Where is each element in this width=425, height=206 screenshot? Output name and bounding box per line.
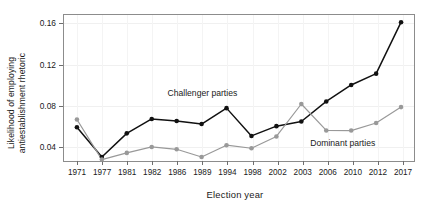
- data-point-dominant-parties-1981: [125, 151, 130, 156]
- data-point-challenger-parties-1998: [249, 134, 254, 139]
- x-tick-label-1994: 1994: [218, 168, 236, 177]
- plot-area: 0.040.080.120.16197119771981198219861989…: [63, 14, 415, 162]
- series-line-challenger-parties: [77, 22, 401, 157]
- x-tick-label-1998: 1998: [243, 168, 261, 177]
- y-tick-0.16: [59, 23, 63, 24]
- data-point-challenger-parties-1989: [199, 122, 204, 127]
- x-tick-label-2003: 2003: [294, 168, 312, 177]
- x-tick-label-1989: 1989: [193, 168, 211, 177]
- data-point-dominant-parties-2002: [274, 134, 279, 139]
- x-tick-label-2017: 2017: [394, 168, 412, 177]
- x-tick-label-1982: 1982: [143, 168, 161, 177]
- x-tick-label-2006: 2006: [319, 168, 337, 177]
- y-tick-label-0.04: 0.04: [40, 142, 56, 152]
- data-point-challenger-parties-1994: [224, 106, 229, 111]
- data-point-challenger-parties-1982: [149, 117, 154, 122]
- data-point-dominant-parties-1994: [224, 143, 229, 148]
- data-point-dominant-parties-2006: [324, 128, 329, 133]
- data-point-challenger-parties-2012: [374, 71, 379, 76]
- data-point-challenger-parties-1981: [125, 131, 130, 136]
- x-tick-label-2010: 2010: [344, 168, 362, 177]
- x-tick-label-1986: 1986: [168, 168, 186, 177]
- data-point-dominant-parties-1977: [100, 157, 105, 162]
- x-axis-title-text: Election year: [207, 189, 264, 200]
- x-tick-label-1971: 1971: [68, 168, 86, 177]
- data-point-dominant-parties-1989: [199, 155, 204, 160]
- data-point-challenger-parties-2002: [274, 124, 279, 129]
- x-tick-label-1977: 1977: [93, 168, 111, 177]
- y-axis-title: Likelihood of employing antiestablishmen…: [0, 0, 34, 206]
- y-axis-title-line-2: antiestablishment rhetoric: [17, 53, 28, 154]
- y-tick-label-0.16: 0.16: [40, 18, 56, 28]
- data-point-dominant-parties-1982: [149, 145, 154, 150]
- annotation-challenger-parties: Challenger parties: [168, 88, 238, 98]
- x-tick-label-2012: 2012: [369, 168, 387, 177]
- data-point-challenger-parties-2010: [349, 83, 354, 88]
- y-tick-0.04: [59, 147, 63, 148]
- x-tick-label-2002: 2002: [269, 168, 287, 177]
- data-point-challenger-parties-2017: [399, 20, 404, 25]
- annotation-dominant-parties: Dominant parties: [310, 138, 375, 148]
- data-point-dominant-parties-2012: [374, 121, 379, 126]
- y-tick-0.12: [59, 65, 63, 66]
- data-point-dominant-parties-2003: [299, 102, 304, 107]
- chart-figure: Likelihood of employing antiestablishmen…: [0, 0, 425, 206]
- data-point-dominant-parties-2017: [399, 105, 404, 110]
- y-tick-label-0.12: 0.12: [40, 60, 56, 70]
- data-point-challenger-parties-1986: [174, 119, 179, 124]
- data-point-challenger-parties-2003: [299, 119, 304, 124]
- data-point-dominant-parties-1986: [174, 147, 179, 152]
- y-tick-0.08: [59, 106, 63, 107]
- data-point-dominant-parties-1971: [75, 117, 80, 122]
- x-tick-label-1981: 1981: [118, 168, 136, 177]
- data-point-dominant-parties-2010: [349, 128, 354, 133]
- y-axis-title-line-1: Likelihood of employing: [6, 53, 17, 154]
- data-point-challenger-parties-1971: [75, 125, 80, 130]
- y-tick-label-0.08: 0.08: [40, 101, 56, 111]
- data-point-challenger-parties-2006: [324, 99, 329, 104]
- data-point-dominant-parties-1998: [249, 146, 254, 151]
- x-axis-title: Election year: [55, 186, 415, 202]
